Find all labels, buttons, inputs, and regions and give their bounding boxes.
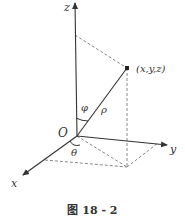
spherical-coordinate-figure: z y x O (x,y,z) φ ρ θ 图 18 - 2 [0, 0, 185, 222]
axes [23, 3, 167, 175]
theta-arc [70, 141, 80, 146]
diagram-canvas: z y x O (x,y,z) φ ρ θ [0, 0, 185, 222]
point-label: (x,y,z) [136, 63, 165, 74]
phi-arc [76, 118, 88, 121]
x-label: x [11, 177, 18, 190]
figure-caption: 图 18 - 2 [0, 201, 185, 217]
z-axis [75, 3, 77, 136]
y-axis [77, 136, 167, 145]
x-axis [23, 136, 77, 175]
origin-label: O [58, 126, 68, 140]
theta-label: θ [71, 147, 77, 158]
y-label: y [169, 143, 177, 156]
phi-label: φ [81, 102, 88, 113]
z-label: z [63, 1, 70, 14]
rho-label: ρ [100, 104, 107, 115]
point-marker [125, 66, 129, 70]
